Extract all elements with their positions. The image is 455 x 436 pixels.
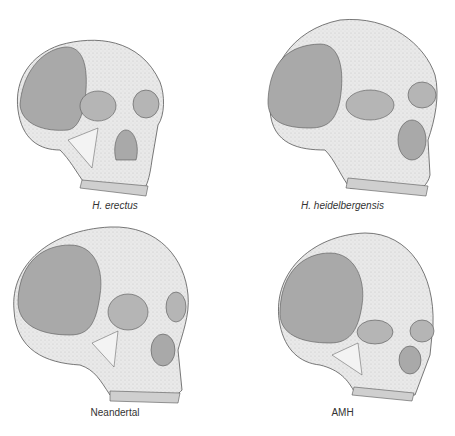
- skull-panel-h-heidelbergensis: H. heidelbergensis: [230, 0, 455, 215]
- skull-label-h-heidelbergensis: H. heidelbergensis: [230, 200, 455, 211]
- skull-label-amh: AMH: [230, 407, 455, 418]
- nasal-aperture: [399, 346, 421, 374]
- skull-label-neandertal: Neandertal: [0, 407, 230, 418]
- skull-label-h-erectus: H. erectus: [0, 200, 230, 211]
- teeth: [110, 391, 180, 403]
- orbit-right: [410, 320, 434, 342]
- orbit-right: [166, 292, 186, 322]
- neandertal-skull-illustration: [0, 215, 230, 436]
- orbit-left: [346, 90, 394, 120]
- nasal-aperture: [151, 334, 175, 366]
- temporal-fossa: [268, 44, 342, 128]
- nasal-aperture: [398, 120, 426, 160]
- orbit-left: [108, 294, 148, 330]
- skull-panel-amh: AMH: [230, 215, 455, 436]
- amh-skull-illustration: [230, 215, 455, 436]
- h-heidelbergensis-skull-illustration: [230, 0, 455, 215]
- orbit-right: [408, 82, 436, 108]
- skull-panel-h-erectus: H. erectus: [0, 0, 230, 215]
- skull-panel-neandertal: Neandertal: [0, 215, 230, 436]
- h-erectus-skull-illustration: [0, 0, 230, 215]
- temporal-fossa: [18, 245, 101, 335]
- temporal-fossa: [280, 253, 363, 343]
- orbit-left: [357, 320, 393, 344]
- temporal-fossa: [20, 47, 86, 130]
- orbit-right: [133, 90, 159, 118]
- orbit-left: [80, 91, 116, 121]
